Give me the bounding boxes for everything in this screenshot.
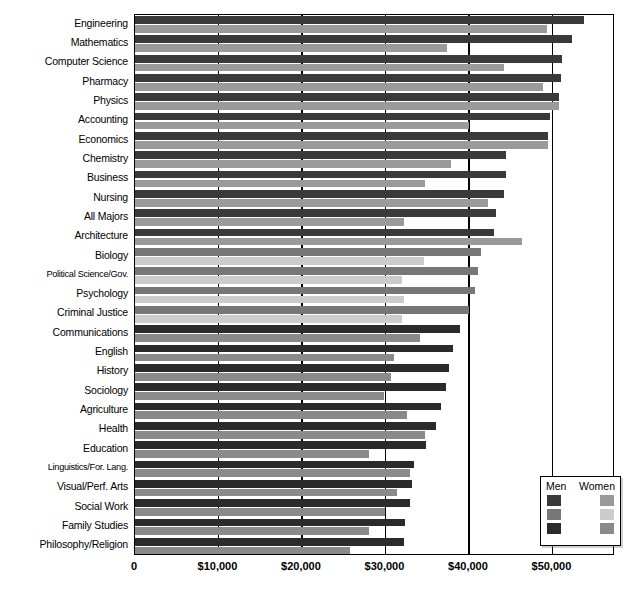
bar-women [135, 527, 369, 535]
legend-swatch-women [600, 523, 614, 534]
bar-men [135, 55, 562, 63]
bar-men [135, 248, 481, 256]
legend-swatch-men [547, 509, 561, 520]
legend-row [545, 495, 616, 506]
plot-area [134, 14, 614, 555]
bar-men [135, 480, 412, 488]
bar-men [135, 113, 550, 121]
bar-men [135, 190, 504, 198]
bar-row [135, 131, 613, 150]
bar-women [135, 547, 350, 555]
bar-row [135, 324, 613, 343]
bar-men [135, 499, 410, 507]
bar-women [135, 238, 522, 246]
bar-men [135, 171, 506, 179]
category-label-economics: Economics [78, 134, 128, 145]
category-label-chemistry: Chemistry [83, 153, 128, 164]
bar-women [135, 25, 547, 33]
category-label-linguistics-for-lang: Linguistics/For. Lang. [48, 462, 128, 473]
bar-women [135, 373, 391, 381]
category-label-biology: Biology [95, 250, 128, 261]
bar-row [135, 363, 613, 382]
xtick-label-10000: $10,000 [198, 560, 238, 572]
category-label-agriculture: Agriculture [80, 404, 128, 415]
category-label-history: History [97, 365, 128, 376]
bar-men [135, 306, 469, 314]
bar-row [135, 286, 613, 305]
bar-women [135, 411, 407, 419]
category-label-accounting: Accounting [78, 114, 128, 125]
bar-women [135, 199, 488, 207]
bar-row [135, 305, 613, 324]
bar-women [135, 160, 451, 168]
bar-row [135, 189, 613, 208]
bar-men [135, 209, 496, 217]
legend-row [545, 509, 616, 520]
category-label-health: Health [99, 423, 128, 434]
category-label-sociology: Sociology [84, 385, 128, 396]
bar-women [135, 44, 447, 52]
bar-row [135, 34, 613, 53]
bar-women [135, 102, 559, 110]
bar-women [135, 354, 394, 362]
legend-headers: Men Women [545, 480, 616, 492]
xtick-label-20000: $20,000 [281, 560, 321, 572]
category-label-psychology: Psychology [76, 288, 128, 299]
bar-row [135, 73, 613, 92]
xtick-label-40000: $40,000 [448, 560, 488, 572]
category-label-mathematics: Mathematics [71, 37, 128, 48]
bar-women [135, 64, 504, 72]
bar-men [135, 461, 414, 469]
category-label-pharmacy: Pharmacy [82, 76, 128, 87]
category-label-visual-perf-arts: Visual/Perf. Arts [57, 481, 128, 492]
bar-women [135, 296, 404, 304]
xtick-label-30000: $30,000 [365, 560, 405, 572]
category-label-philosophy-religion: Philosophy/Religion [40, 539, 128, 550]
category-label-architecture: Architecture [74, 230, 128, 241]
bar-women [135, 489, 397, 497]
legend-swatch-women [600, 495, 614, 506]
legend-swatch-rows [545, 495, 616, 534]
bar-row [135, 247, 613, 266]
bar-row [135, 401, 613, 420]
bar-women [135, 180, 425, 188]
bar-men [135, 403, 441, 411]
bar-row [135, 208, 613, 227]
value-axis: 0$10,000$20,000$30,000$40,000$50,000 [134, 556, 614, 578]
category-label-social-work: Social Work [74, 501, 128, 512]
bar-women [135, 450, 369, 458]
bar-row [135, 54, 613, 73]
category-label-physics: Physics [93, 95, 128, 106]
bar-men [135, 35, 572, 43]
xtick-label-0: 0 [131, 560, 137, 572]
chart-legend: Men Women [540, 476, 621, 546]
category-label-all-majors: All Majors [84, 211, 128, 222]
bar-women [135, 218, 404, 226]
bar-men [135, 132, 548, 140]
bar-men [135, 422, 436, 430]
bar-row [135, 150, 613, 169]
bar-row [135, 15, 613, 34]
category-label-english: English [95, 346, 128, 357]
bar-men [135, 364, 449, 372]
bar-men [135, 74, 561, 82]
category-label-education: Education [83, 443, 128, 454]
bar-row [135, 170, 613, 189]
bar-row [135, 266, 613, 285]
bar-men [135, 538, 404, 546]
bar-men [135, 16, 584, 24]
bar-women [135, 141, 548, 149]
bar-women [135, 276, 402, 284]
bar-row [135, 92, 613, 111]
bar-women [135, 83, 543, 91]
category-label-communications: Communications [53, 327, 128, 338]
bar-men [135, 441, 426, 449]
bar-women [135, 315, 402, 323]
bar-women [135, 469, 410, 477]
bar-chart: EngineeringMathematicsComputer SciencePh… [0, 0, 629, 597]
bar-women [135, 508, 385, 516]
category-label-family-studies: Family Studies [62, 520, 128, 531]
bar-women [135, 392, 384, 400]
legend-header-men: Men [546, 480, 566, 492]
category-label-criminal-justice: Criminal Justice [57, 307, 128, 318]
